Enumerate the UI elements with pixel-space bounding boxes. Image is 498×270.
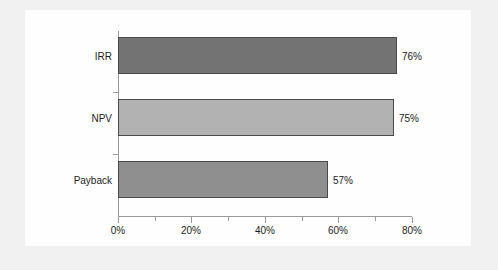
bar-value-npv: 75% xyxy=(399,112,419,123)
y-tick-lower xyxy=(113,154,118,155)
x-tick-0 xyxy=(118,217,119,223)
x-tick-minor-50 xyxy=(302,217,303,221)
bar-label-npv: NPV xyxy=(91,112,112,123)
x-tick-80 xyxy=(412,217,413,223)
bar-value-payback: 57% xyxy=(333,174,353,185)
x-tick-label-0: 0% xyxy=(111,225,125,236)
x-tick-40 xyxy=(265,217,266,223)
x-tick-minor-70 xyxy=(375,217,376,221)
bar-irr[interactable]: IRR 76% xyxy=(118,37,397,74)
figure-root: 0% 20% 40% 60% 80% IRR 76% NPV 75% Payba… xyxy=(0,0,498,270)
bar-payback[interactable]: Payback 57% xyxy=(118,161,328,198)
bar-label-payback: Payback xyxy=(74,174,112,185)
x-tick-20 xyxy=(191,217,192,223)
bar-value-irr: 76% xyxy=(402,50,422,61)
x-tick-minor-30 xyxy=(228,217,229,221)
chart-panel: 0% 20% 40% 60% 80% IRR 76% NPV 75% Payba… xyxy=(25,10,471,246)
x-tick-label-80: 80% xyxy=(402,225,422,236)
x-tick-label-20: 20% xyxy=(181,225,201,236)
bar-npv[interactable]: NPV 75% xyxy=(118,99,394,136)
x-tick-60 xyxy=(338,217,339,223)
y-tick-upper xyxy=(113,92,118,93)
x-tick-label-60: 60% xyxy=(328,225,348,236)
x-tick-label-40: 40% xyxy=(255,225,275,236)
plot-area: 0% 20% 40% 60% 80% IRR 76% NPV 75% Payba… xyxy=(118,31,412,216)
x-tick-minor-10 xyxy=(155,217,156,221)
bar-label-irr: IRR xyxy=(95,50,112,61)
